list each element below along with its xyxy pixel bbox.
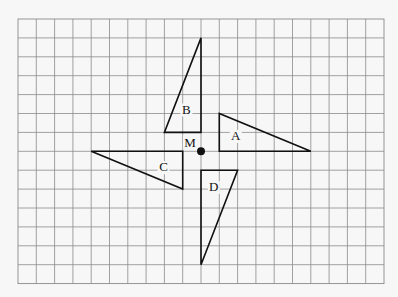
triangle-label: D — [209, 179, 218, 194]
triangle-label: C — [159, 159, 168, 174]
triangle-label: B — [182, 102, 191, 117]
triangle-label: A — [231, 128, 241, 143]
grid-diagram: ABCD M — [0, 0, 398, 297]
point-m-dot — [197, 147, 205, 155]
point-m-label: M — [184, 135, 196, 150]
center-point-m: M — [183, 135, 205, 155]
